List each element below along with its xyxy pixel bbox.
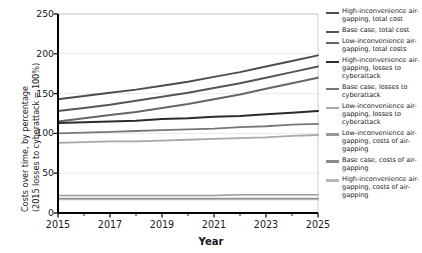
x-tick-label: 2015	[46, 219, 70, 230]
legend-swatch	[326, 12, 339, 15]
legend-item[interactable]: Base case, total cost	[326, 27, 409, 35]
legend-swatch	[326, 88, 339, 91]
legend-swatch	[326, 179, 339, 182]
legend-swatch	[326, 42, 339, 45]
series-line-5	[58, 135, 318, 143]
legend-swatch	[326, 61, 339, 64]
legend-swatch	[326, 31, 339, 34]
legend-label: Low-inconvenience air-gapping, costs of …	[342, 130, 422, 154]
legend-label: High-inconvenience air-gapping, losses t…	[342, 57, 422, 81]
legend-label: Base case, losses to cyberattack	[342, 84, 422, 100]
x-tick-label: 2023	[254, 219, 278, 230]
legend-label: Low-inconvenience air-gapping, losses to…	[342, 103, 422, 127]
legend-label: High-inconvenience air-gapping, total co…	[342, 8, 422, 24]
legend-item[interactable]: Base case, losses to cyberattack	[326, 84, 422, 100]
legend-item[interactable]: Low-inconvenience air-gapping, costs of …	[326, 130, 422, 154]
x-tick-label: 2025	[306, 219, 330, 230]
legend-item[interactable]: Base case, costs of air-gapping	[326, 157, 422, 173]
legend-label: Base case, costs of air-gapping	[342, 157, 422, 173]
legend-label: Low-inconvenience air-gapping, total cos…	[342, 38, 422, 54]
legend-label: Base case, total cost	[342, 27, 409, 35]
series-line-4	[58, 124, 318, 134]
x-tick-label: 2019	[150, 219, 174, 230]
legend-item[interactable]: Low-inconvenience air-gapping, losses to…	[326, 103, 422, 127]
legend-item[interactable]: High-inconvenience air-gapping, costs of…	[326, 176, 422, 200]
legend-swatch	[326, 160, 339, 163]
legend-label: High-inconvenience air-gapping, costs of…	[342, 176, 422, 200]
legend-item[interactable]: High-inconvenience air-gapping, total co…	[326, 8, 422, 24]
x-tick-label: 2021	[202, 219, 226, 230]
series-line-6	[58, 195, 318, 196]
legend-item[interactable]: High-inconvenience air-gapping, losses t…	[326, 57, 422, 81]
series-line-2	[58, 78, 318, 122]
chart-figure: Costs over time, by percentage (2015 los…	[0, 0, 422, 253]
legend-swatch	[326, 133, 339, 136]
legend-item[interactable]: Low-inconvenience air-gapping, total cos…	[326, 38, 422, 54]
x-axis-label: Year	[0, 236, 422, 247]
legend-swatch	[326, 107, 339, 110]
x-tick-label: 2017	[98, 219, 122, 230]
